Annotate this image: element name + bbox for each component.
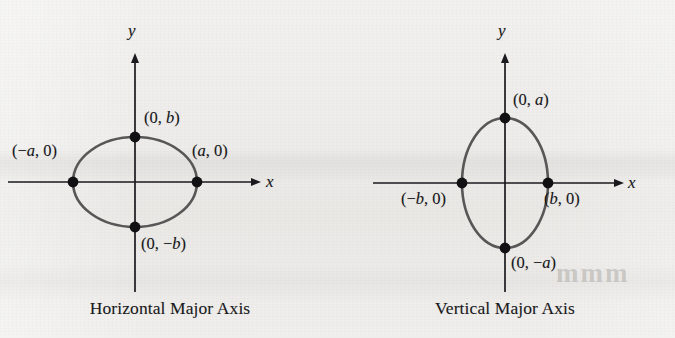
vertex-dot-right	[192, 177, 203, 188]
caption-horizontal: Horizontal Major Axis	[0, 298, 340, 319]
vertex-dot-left	[68, 177, 79, 188]
vertex-dot-bottom	[500, 243, 511, 254]
label-left-covertex: (−b, 0)	[401, 191, 446, 208]
panel-vertical-major-axis: y x (0, a) (−b, 0) (b, 0) (0, −a) Vertic…	[335, 0, 675, 338]
x-axis-label: x	[628, 174, 636, 191]
label-bottom-vertex: (0, −a)	[511, 255, 556, 272]
vertex-dot-left	[457, 178, 468, 189]
y-axis-label: y	[128, 22, 136, 39]
label-top-covertex: (0, b)	[144, 110, 180, 127]
x-axis-label: x	[266, 173, 274, 190]
vertex-dot-top	[130, 132, 141, 143]
vertex-dot-right	[543, 178, 554, 189]
label-top-vertex: (0, a)	[513, 92, 549, 109]
vertex-dot-top	[500, 113, 511, 124]
vertex-dot-bottom	[130, 222, 141, 233]
label-left-vertex: (−a, 0)	[12, 143, 57, 160]
vertical-ellipse-plot	[335, 0, 675, 300]
y-axis-label: y	[498, 22, 506, 39]
caption-vertical: Vertical Major Axis	[335, 298, 675, 319]
label-bottom-covertex: (0, −b)	[141, 236, 186, 253]
panel-horizontal-major-axis: y x (0, b) (−a, 0) (a, 0) (0, −b) Horizo…	[0, 0, 340, 338]
ellipse-figure: mmm y x (0, b)	[0, 0, 675, 338]
label-right-covertex: (b, 0)	[544, 191, 580, 208]
label-right-vertex: (a, 0)	[192, 143, 228, 160]
